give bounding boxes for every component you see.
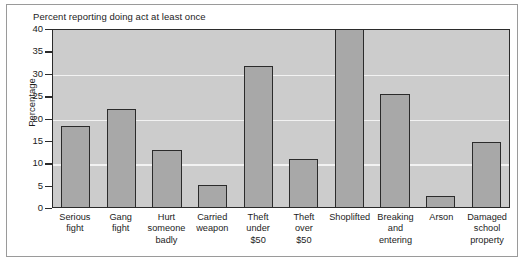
x-axis-label-line: Theft bbox=[236, 212, 280, 223]
y-tick-label: 35 bbox=[32, 45, 43, 56]
x-axis-label-line: Theft bbox=[282, 212, 326, 223]
y-tick-label: 15 bbox=[32, 135, 43, 146]
bar[interactable] bbox=[198, 185, 227, 207]
x-axis-label: Breakingandentering bbox=[373, 212, 419, 246]
plot-area bbox=[52, 29, 510, 208]
y-tick-label: 40 bbox=[32, 23, 43, 34]
x-axis-label-line: and bbox=[374, 223, 418, 234]
y-axis-tick: 30 bbox=[30, 74, 52, 75]
y-tick-mark bbox=[45, 163, 52, 164]
y-tick-mark bbox=[45, 29, 52, 30]
x-axis-label-line: Shoplifted bbox=[328, 212, 372, 223]
x-axis-label-line: over bbox=[282, 223, 326, 234]
y-tick-mark bbox=[45, 208, 52, 209]
bar-slot bbox=[327, 30, 373, 207]
bar-slot bbox=[53, 30, 99, 207]
y-tick-mark bbox=[45, 141, 52, 142]
x-axis-label: Theftunder$50 bbox=[235, 212, 281, 246]
y-tick-mark bbox=[45, 96, 52, 97]
bar[interactable] bbox=[244, 66, 273, 207]
bar[interactable] bbox=[335, 29, 364, 207]
x-axis-label: Shoplifted bbox=[327, 212, 373, 246]
bar-chart-figure: Percent reporting doing act at least onc… bbox=[0, 0, 526, 267]
x-axis-label-line: Gang bbox=[99, 212, 143, 223]
y-axis-tick: 40 bbox=[30, 29, 52, 30]
y-axis-tick: 25 bbox=[30, 96, 52, 97]
bar-slot bbox=[372, 30, 418, 207]
bar[interactable] bbox=[61, 126, 90, 207]
x-axis-label-line: badly bbox=[145, 235, 189, 246]
bar-slot bbox=[235, 30, 281, 207]
x-axis-label-line: fight bbox=[99, 223, 143, 234]
y-tick-label: 30 bbox=[32, 68, 43, 79]
bar[interactable] bbox=[426, 196, 455, 207]
bar[interactable] bbox=[289, 159, 318, 207]
y-tick-mark bbox=[45, 74, 52, 75]
x-axis-label: Damagedschoolproperty bbox=[464, 212, 510, 246]
y-tick-label: 10 bbox=[32, 157, 43, 168]
y-axis-tick: 0 bbox=[30, 208, 52, 209]
x-axis-label-line: Damaged bbox=[465, 212, 509, 223]
y-axis: 0510152025303540 bbox=[30, 29, 52, 208]
x-axis-label: Carriedweapon bbox=[189, 212, 235, 246]
chart-title: Percent reporting doing act at least onc… bbox=[33, 11, 206, 22]
y-tick-mark bbox=[45, 51, 52, 52]
y-axis-tick: 10 bbox=[30, 163, 52, 164]
x-axis-label: Theftover$50 bbox=[281, 212, 327, 246]
y-tick-label: 5 bbox=[38, 180, 43, 191]
x-axis-label-line: Carried bbox=[190, 212, 234, 223]
y-tick-label: 0 bbox=[38, 202, 43, 213]
x-axis-labels: SeriousfightGangfightHurtsomeonebadlyCar… bbox=[52, 212, 510, 246]
x-axis-label-line: school bbox=[465, 223, 509, 234]
y-axis-tick: 20 bbox=[30, 119, 52, 120]
x-axis-label: Arson bbox=[418, 212, 464, 246]
x-axis-label-line: under bbox=[236, 223, 280, 234]
bar-slot bbox=[463, 30, 509, 207]
bar-slot bbox=[144, 30, 190, 207]
bar-slot bbox=[190, 30, 236, 207]
y-tick-mark bbox=[45, 119, 52, 120]
bar-slot bbox=[418, 30, 464, 207]
y-tick-label: 20 bbox=[32, 113, 43, 124]
x-axis-label-line: Breaking bbox=[374, 212, 418, 223]
x-axis-label-line: property bbox=[465, 235, 509, 246]
x-axis-label-line: someone bbox=[145, 223, 189, 234]
bar-slot bbox=[99, 30, 145, 207]
y-axis-tick: 35 bbox=[30, 51, 52, 52]
y-axis-tick: 15 bbox=[30, 141, 52, 142]
x-axis-label: Hurtsomeonebadly bbox=[144, 212, 190, 246]
x-axis-label-line: Serious bbox=[53, 212, 97, 223]
bar[interactable] bbox=[107, 109, 136, 207]
bar[interactable] bbox=[472, 142, 501, 207]
x-axis-label-line: $50 bbox=[282, 235, 326, 246]
bar-slot bbox=[281, 30, 327, 207]
x-axis-label-line: entering bbox=[374, 235, 418, 246]
x-axis-label-line: weapon bbox=[190, 223, 234, 234]
x-axis-label: Gangfight bbox=[98, 212, 144, 246]
x-axis-label-line: $50 bbox=[236, 235, 280, 246]
x-axis-label-line: Hurt bbox=[145, 212, 189, 223]
y-tick-label: 25 bbox=[32, 90, 43, 101]
x-axis-label-line: Arson bbox=[419, 212, 463, 223]
y-tick-mark bbox=[45, 186, 52, 187]
y-axis-tick: 5 bbox=[30, 186, 52, 187]
bar-series bbox=[53, 30, 509, 207]
bar[interactable] bbox=[152, 150, 181, 207]
x-axis-label-line: fight bbox=[53, 223, 97, 234]
x-axis-label: Seriousfight bbox=[52, 212, 98, 246]
bar[interactable] bbox=[380, 94, 409, 207]
